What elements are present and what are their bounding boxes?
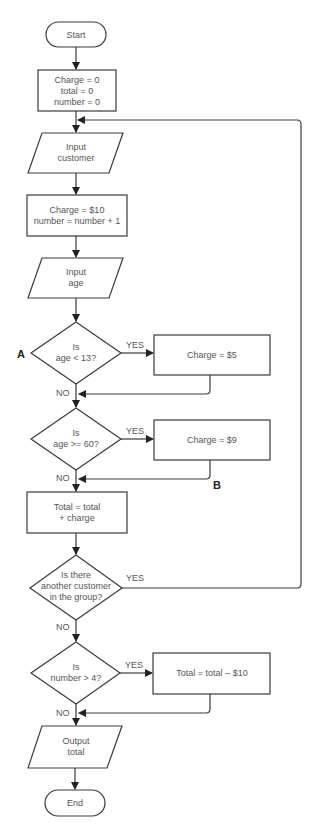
init-line-3: number = 0 (54, 97, 100, 107)
arrow-child-return (79, 375, 210, 394)
input-customer-line-1: Input (66, 142, 87, 152)
decision-senior-line-2: age >= 60? (53, 439, 99, 449)
input-age-line-1: Input (66, 267, 87, 277)
decision-child-line-1: Is (72, 342, 80, 352)
output-total-line-1: Output (62, 736, 90, 746)
set-charge-line-2: number = number + 1 (34, 216, 121, 226)
marker-a: A (17, 348, 25, 360)
decision-group-line-2: number > 4? (51, 673, 102, 683)
set-charge-line-1: Charge = $10 (50, 205, 105, 215)
decision-child-line-2: age < 13? (56, 353, 96, 363)
arrow-senior-return (79, 460, 210, 479)
flowchart: Start Charge = 0 total = 0 number = 0 In… (0, 0, 318, 829)
init-line-2: total = 0 (61, 86, 93, 96)
no-label-4: NO (56, 708, 70, 718)
end-label: End (67, 798, 83, 808)
init-line-1: Charge = 0 (55, 75, 100, 85)
discount-label: Total = total – $10 (176, 668, 247, 678)
yes-label-3: YES (126, 573, 144, 583)
marker-b: B (213, 479, 221, 491)
add-total-line-1: Total = total (54, 502, 100, 512)
yes-label-2: YES (126, 426, 144, 436)
decision-group-line-1: Is (72, 662, 80, 672)
start-label: Start (66, 30, 86, 40)
no-label-2: NO (56, 473, 70, 483)
arrow-discount-return (79, 694, 210, 713)
decision-more-line-1: Is there (61, 570, 91, 580)
child-charge-label: Charge = $5 (187, 350, 237, 360)
no-label-3: NO (56, 622, 70, 632)
add-total-line-2: + charge (59, 513, 94, 523)
input-customer-line-2: customer (57, 153, 94, 163)
decision-senior-line-1: Is (72, 428, 80, 438)
decision-more-line-2: another customer (41, 581, 111, 591)
yes-label-4: YES (125, 660, 143, 670)
senior-charge-label: Charge = $9 (187, 435, 237, 445)
decision-more-line-3: in the group? (50, 592, 103, 602)
no-label-1: NO (56, 388, 70, 398)
input-age-line-2: age (68, 278, 83, 288)
yes-label-1: YES (126, 340, 144, 350)
output-total-line-2: total (67, 747, 84, 757)
